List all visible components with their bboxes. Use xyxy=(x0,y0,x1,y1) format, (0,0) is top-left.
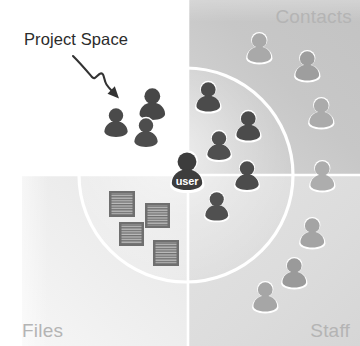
quadrant-contacts-top-fade xyxy=(188,0,360,22)
document-icon[interactable] xyxy=(119,222,144,246)
quadrant-files-left-fade xyxy=(22,175,48,346)
diagram-canvas: Project Space Contacts Files Staff user xyxy=(0,0,360,346)
document-icon[interactable] xyxy=(109,191,135,217)
project-space-diagram-svg xyxy=(0,0,360,346)
document-icon[interactable] xyxy=(145,203,170,228)
document-icon[interactable] xyxy=(153,240,179,266)
